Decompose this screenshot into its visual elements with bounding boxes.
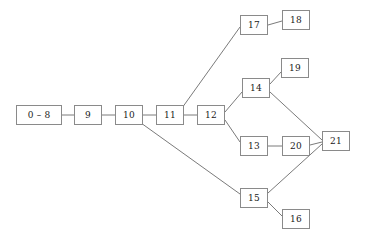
- node-10[interactable]: 10: [115, 105, 143, 125]
- node-label: 20: [290, 141, 302, 150]
- node-label: 18: [290, 15, 302, 24]
- node-label: 19: [289, 63, 301, 72]
- node-19[interactable]: 19: [281, 58, 309, 78]
- node-18[interactable]: 18: [282, 10, 310, 30]
- edge-n12-to-n14: [225, 92, 242, 112]
- node-label: 10: [123, 110, 135, 119]
- edge-n10-to-n15: [141, 123, 240, 194]
- node-0-8[interactable]: 0 – 8: [16, 105, 62, 125]
- edge-n17-to-n18: [268, 21, 282, 25]
- node-label: 11: [164, 110, 176, 119]
- node-11[interactable]: 11: [156, 105, 184, 125]
- node-label: 21: [330, 136, 342, 145]
- node-15[interactable]: 15: [240, 188, 268, 208]
- edge-n14-to-n21: [270, 92, 322, 140]
- node-label: 14: [250, 83, 262, 92]
- node-label: 17: [248, 20, 260, 29]
- node-17[interactable]: 17: [240, 15, 268, 35]
- node-14[interactable]: 14: [242, 78, 270, 98]
- node-label: 12: [205, 110, 217, 119]
- node-label: 15: [248, 193, 260, 202]
- node-label: 9: [85, 110, 91, 119]
- node-20[interactable]: 20: [282, 136, 310, 156]
- edge-n20-to-n21: [310, 142, 322, 145]
- node-label: 16: [290, 214, 302, 223]
- edge-n14-to-n19: [270, 72, 281, 84]
- diagram-canvas: 0 – 8 9 10 11 12 17 18 14 19 13 20 21 15…: [0, 0, 365, 243]
- node-label: 13: [248, 141, 260, 150]
- edge-n15-to-n16: [268, 202, 282, 216]
- node-12[interactable]: 12: [197, 105, 225, 125]
- node-9[interactable]: 9: [74, 105, 102, 125]
- node-label: 0 – 8: [28, 110, 51, 119]
- node-16[interactable]: 16: [282, 209, 310, 229]
- node-21[interactable]: 21: [322, 131, 350, 151]
- edge-n11-to-n17: [182, 27, 240, 108]
- edge-n12-to-n13: [225, 120, 240, 142]
- node-13[interactable]: 13: [240, 136, 268, 156]
